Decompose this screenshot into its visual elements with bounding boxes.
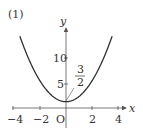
problem-label: (1) [8,8,24,21]
x-tick-label: −4 [7,113,23,126]
annotation-leader [66,88,74,101]
y-tick-label: 5 [57,78,64,91]
x-tick-label: 4 [115,113,122,126]
annotation-numerator: 3 [77,63,84,76]
parabola-chart: (1) x y −4 −2 O 2 4 10 5 3 2 [0,0,143,139]
x-tick-label: −2 [33,113,49,126]
x-axis-label: x [129,102,136,115]
y-axis-label: y [59,15,67,28]
annotation-denominator: 2 [77,76,84,89]
origin-label: O [56,113,65,126]
x-tick-label: 2 [89,113,96,126]
y-tick-label: 10 [53,52,67,65]
